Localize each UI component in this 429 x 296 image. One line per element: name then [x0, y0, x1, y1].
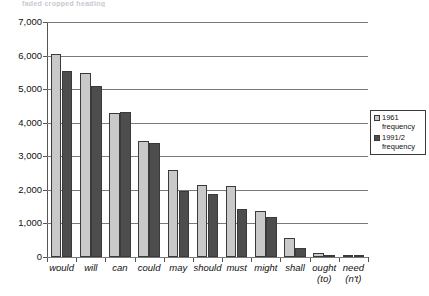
x-axis-category-labels: wouldwillcancouldmayshouldmustmightshall… — [47, 262, 369, 296]
legend-entry-1991: 1991/2 frequency — [374, 134, 423, 151]
legend-label-1991: 1991/2 frequency — [382, 134, 415, 151]
y-tick-label: 1,000 — [2, 218, 42, 228]
plot-area — [47, 22, 368, 257]
y-tick-label: 7,000 — [2, 17, 42, 27]
y-tick-label: 4,000 — [2, 118, 42, 128]
x-label-neednt: need(n't) — [323, 262, 383, 284]
bar-group — [47, 22, 368, 257]
legend-swatch-1961-icon — [374, 115, 380, 121]
x-label-line: (n't) — [323, 273, 383, 284]
x-label-line: need — [343, 262, 364, 273]
legend-entry-1961: 1961 frequency — [374, 114, 423, 131]
modal-verb-frequency-chart: faded cropped heading 01,0002,0003,0004,… — [0, 0, 429, 296]
bar — [354, 255, 365, 257]
y-tick-label: 2,000 — [2, 185, 42, 195]
y-tick-label: 6,000 — [2, 51, 42, 61]
y-tick-label: 0 — [2, 252, 42, 262]
legend-label-1961: 1961 frequency — [382, 114, 415, 131]
y-axis-tick-labels: 01,0002,0003,0004,0005,0006,0007,000 — [0, 22, 42, 258]
cropped-caption-text: faded cropped heading — [22, 0, 222, 7]
bar — [343, 255, 354, 257]
y-tick-label: 5,000 — [2, 84, 42, 94]
y-tick-label: 3,000 — [2, 151, 42, 161]
chart-legend: 1961 frequency 1991/2 frequency — [370, 110, 426, 155]
legend-swatch-1991-icon — [374, 135, 380, 141]
